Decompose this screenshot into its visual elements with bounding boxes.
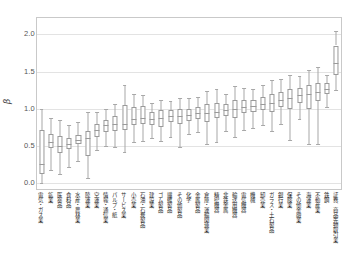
- median-line: [113, 124, 118, 125]
- whisker-cap-lower: [196, 132, 200, 133]
- x-tick-label: 卸売業: [259, 192, 265, 207]
- x-tick-label: 銀行業: [277, 192, 283, 207]
- whisker-upper: [115, 104, 116, 116]
- whisker-cap-lower: [40, 183, 44, 184]
- x-tick-label: 倉庫・運輸関連業: [204, 192, 210, 232]
- whisker-cap-lower: [279, 124, 283, 125]
- whisker-cap-upper: [252, 89, 256, 90]
- whisker-cap-lower: [307, 144, 311, 145]
- whisker-cap-lower: [261, 125, 265, 126]
- x-tick-label: 金属製品: [194, 192, 200, 212]
- whisker-cap-lower: [113, 147, 117, 148]
- whisker-cap-lower: [187, 134, 191, 135]
- whisker-cap-upper: [40, 109, 44, 110]
- x-tick-label: 海運業: [305, 192, 311, 207]
- box-plot-item: [221, 18, 230, 189]
- box-iqr: [122, 105, 127, 130]
- box-plot-item: [148, 18, 157, 189]
- whisker-upper: [317, 67, 318, 83]
- x-tick-label: その他金融業: [296, 192, 302, 222]
- whisker-cap-lower: [334, 90, 338, 91]
- box-plot-item: [240, 18, 249, 189]
- whisker-upper: [69, 125, 70, 138]
- y-tick-label: 0.5: [1, 140, 35, 149]
- x-tick-label: その他製品: [176, 192, 182, 217]
- whisker-lower: [271, 112, 272, 131]
- whisker-lower: [253, 112, 254, 128]
- whisker-cap-lower: [141, 141, 145, 142]
- median-line: [104, 125, 109, 126]
- box-plot-item: [65, 18, 74, 189]
- x-tick-label: 石油・石炭製品: [139, 192, 145, 227]
- whisker-lower: [60, 153, 61, 175]
- whisker-cap-upper: [233, 86, 237, 87]
- median-line: [279, 100, 284, 101]
- whisker-cap-upper: [279, 79, 283, 80]
- whisker-cap-upper: [141, 95, 145, 96]
- whisker-cap-upper: [261, 85, 265, 86]
- x-tick-label: 輸送用機器: [231, 192, 237, 217]
- whisker-cap-upper: [325, 75, 329, 76]
- median-line: [260, 104, 265, 105]
- whisker-lower: [299, 103, 300, 119]
- whisker-upper: [262, 85, 263, 97]
- median-line: [39, 164, 44, 165]
- x-tick-label: 不動産業: [314, 192, 320, 212]
- whisker-lower: [207, 122, 208, 144]
- whisker-upper: [170, 101, 171, 110]
- whisker-cap-upper: [95, 112, 99, 113]
- median-line: [269, 103, 274, 104]
- box-plot-item: [138, 18, 147, 189]
- box-plot-item: [295, 18, 304, 189]
- median-line: [159, 118, 164, 119]
- x-tick-label: 電気機器: [240, 192, 246, 212]
- x-tick-label: 電気・ガス業: [38, 192, 44, 222]
- x-axis-labels: 電気・ガス業鉱業医薬品食料品水産・農林業陸運業空運業情報・通信業パルプ・紙サービ…: [36, 192, 342, 272]
- median-line: [140, 118, 145, 119]
- x-tick-label: ゴム製品: [157, 192, 163, 212]
- whisker-cap-upper: [113, 104, 117, 105]
- y-tick-label: 0.0: [1, 178, 35, 187]
- whisker-upper: [87, 112, 88, 131]
- box-iqr: [306, 85, 311, 109]
- whisker-upper: [142, 95, 143, 105]
- whisker-cap-upper: [132, 94, 136, 95]
- whisker-upper: [78, 122, 79, 135]
- x-tick-label: 鉄鋼: [323, 192, 329, 202]
- median-line: [67, 144, 72, 145]
- median-line: [297, 95, 302, 96]
- whisker-cap-lower: [123, 152, 127, 153]
- whisker-cap-lower: [159, 141, 163, 142]
- whisker-cap-lower: [233, 137, 237, 138]
- median-line: [205, 113, 210, 114]
- whisker-upper: [281, 79, 282, 92]
- whisker-lower: [78, 144, 79, 160]
- whisker-upper: [308, 70, 309, 85]
- whisker-cap-lower: [270, 131, 274, 132]
- whisker-upper: [161, 100, 162, 110]
- box-plot-item: [92, 18, 101, 189]
- whisker-lower: [188, 121, 189, 134]
- box-plot-item: [74, 18, 83, 189]
- x-tick-label: 陸運業: [84, 192, 90, 207]
- box-iqr: [85, 131, 90, 156]
- whisker-lower: [308, 109, 309, 145]
- y-tick-label: 1.0: [1, 103, 35, 112]
- median-line: [334, 63, 339, 64]
- whisker-upper: [60, 120, 61, 136]
- whisker-cap-upper: [159, 100, 163, 101]
- x-tick-label: 精密機器: [213, 192, 219, 212]
- box-plot-item: [184, 18, 193, 189]
- whisker-upper: [96, 112, 97, 124]
- box-plot-item: [313, 18, 322, 189]
- whisker-lower: [290, 109, 291, 140]
- whisker-upper: [336, 31, 337, 46]
- box-plot-item: [175, 18, 184, 189]
- whisker-cap-upper: [104, 109, 108, 110]
- median-line: [150, 119, 155, 120]
- median-line: [186, 115, 191, 116]
- whisker-upper: [133, 94, 134, 107]
- median-line: [94, 130, 99, 131]
- whisker-cap-lower: [169, 137, 173, 138]
- whisker-cap-upper: [307, 70, 311, 71]
